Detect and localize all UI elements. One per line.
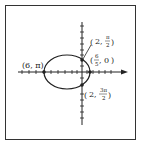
svg-text:π: π bbox=[106, 34, 110, 40]
label-2-3pi-over-2: ( 2, 3π 2 ) bbox=[84, 87, 111, 101]
svg-text:): ) bbox=[111, 38, 114, 47]
svg-text:2,: 2, bbox=[95, 37, 103, 46]
svg-text:, 0: , 0 bbox=[99, 56, 109, 65]
svg-text:(: ( bbox=[90, 38, 93, 47]
label-2-pi-over-2: ( 2, π 2 ) bbox=[90, 34, 114, 48]
label-6-pi: (6, π) bbox=[22, 61, 44, 70]
label-6-5-0: ( 6 5 , 0 ) bbox=[90, 53, 114, 67]
svg-text:3π: 3π bbox=[100, 87, 107, 93]
svg-text:): ) bbox=[111, 56, 114, 65]
vertical-axis bbox=[80, 22, 84, 125]
svg-text:2,: 2, bbox=[89, 90, 97, 99]
point-6-5-0 bbox=[88, 70, 92, 74]
polar-graph: (6, π) ( 2, π 2 ) ( 6 5 , 0 ) ( 2, 3π 2 … bbox=[0, 0, 141, 147]
svg-text:(: ( bbox=[90, 56, 93, 65]
polar-axis bbox=[18, 70, 128, 75]
svg-text:(: ( bbox=[84, 91, 87, 100]
svg-text:2: 2 bbox=[106, 42, 110, 48]
svg-text:): ) bbox=[108, 91, 111, 100]
point-6-pi bbox=[42, 70, 46, 74]
arrow-right-icon bbox=[121, 70, 128, 75]
point-2-3pi-over-2 bbox=[80, 83, 84, 87]
svg-text:2: 2 bbox=[102, 95, 106, 101]
